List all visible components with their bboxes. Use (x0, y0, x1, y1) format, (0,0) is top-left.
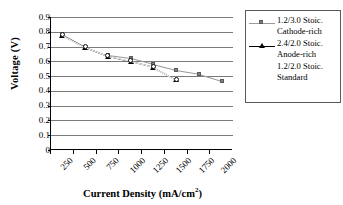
gridline (51, 135, 233, 136)
y-tick-mark (48, 17, 51, 18)
legend-item[interactable]: 1.2/3.0 Stoic.Cathode-rich (249, 15, 337, 36)
data-point-circle (151, 64, 156, 69)
x-axis-title-tail: ) (198, 188, 202, 199)
y-tick-label: 0 (4, 146, 50, 155)
y-tick-label: 0.9 (4, 13, 50, 22)
y-tick-label: 0.2 (4, 116, 50, 125)
x-tick-label: 2000 (220, 156, 239, 175)
legend-label: 1.2/2.0 Stoic.Standard (277, 61, 337, 82)
y-tick-label: 0.5 (4, 72, 50, 81)
legend-key-triangle-icon (259, 43, 265, 48)
data-point-square (220, 79, 224, 83)
legend-marker (249, 42, 275, 50)
gridline (51, 32, 233, 33)
gridline (51, 106, 233, 107)
y-tick-label: 0.8 (4, 27, 50, 36)
legend-item[interactable]: 1.2/2.0 Stoic.Standard (249, 61, 337, 82)
x-tick-label: 250 (59, 156, 75, 172)
x-tick-mark (209, 150, 210, 154)
x-tick-mark (96, 150, 97, 154)
data-point-circle (174, 77, 179, 82)
legend-marker (249, 19, 275, 27)
plot-area (50, 17, 232, 150)
y-tick-label: 0.4 (4, 86, 50, 95)
y-tick-mark (48, 61, 51, 62)
y-tick-mark (48, 32, 51, 33)
x-tick-label: 750 (104, 156, 120, 172)
x-tick-mark (141, 150, 142, 154)
legend-label-line1: 2.4/2.0 Stoic. (277, 38, 337, 49)
x-axis-title: Current Density (mA/cm2) (40, 186, 245, 199)
x-tick-label: 1250 (151, 156, 170, 175)
y-tick-mark (48, 76, 51, 77)
gridline (51, 91, 233, 92)
legend-key-square-icon (259, 20, 263, 24)
x-axis-title-main: Current Density (mA/cm (83, 188, 195, 199)
legend-label-line2: Anode-rich (277, 49, 337, 60)
chart-legend: 1.2/3.0 Stoic.Cathode-rich2.4/2.0 Stoic.… (245, 10, 341, 103)
chart-figure: Voltage (V) 0.90.80.70.60.50.40.30.20.10… (0, 0, 343, 205)
y-tick-label: 0.6 (4, 57, 50, 66)
y-tick-label: 0.3 (4, 101, 50, 110)
x-tick-label: 1750 (197, 156, 216, 175)
legend-label-line2: Standard (277, 72, 337, 83)
y-tick-mark (48, 91, 51, 92)
legend-label-line1: 1.2/3.0 Stoic. (277, 15, 337, 26)
data-point-square (197, 72, 201, 76)
series-line (199, 74, 222, 82)
legend-label: 1.2/3.0 Stoic.Cathode-rich (277, 15, 337, 36)
x-tick-mark (187, 150, 188, 154)
x-tick-mark (50, 150, 51, 154)
gridline (51, 47, 233, 48)
x-tick-label: 1000 (129, 156, 148, 175)
y-tick-mark (48, 135, 51, 136)
y-axis-labels: 0.90.80.70.60.50.40.30.20.10 (0, 0, 50, 205)
y-tick-label: 0.1 (4, 131, 50, 140)
y-tick-label: 0.7 (4, 42, 50, 51)
gridline (51, 120, 233, 121)
legend-item[interactable]: 2.4/2.0 Stoic.Anode-rich (249, 38, 337, 59)
y-tick-mark (48, 120, 51, 121)
gridline (51, 17, 233, 18)
legend-label-line1: 1.2/2.0 Stoic. (277, 61, 337, 72)
y-tick-mark (48, 106, 51, 107)
legend-label-line2: Cathode-rich (277, 26, 337, 37)
x-tick-mark (73, 150, 74, 154)
y-tick-mark (48, 47, 51, 48)
legend-label: 2.4/2.0 Stoic.Anode-rich (277, 38, 337, 59)
legend-marker (249, 65, 275, 73)
x-tick-label: 1500 (174, 156, 193, 175)
x-tick-mark (164, 150, 165, 154)
x-tick-label: 500 (82, 156, 98, 172)
x-tick-mark (118, 150, 119, 154)
series-line (176, 70, 199, 75)
data-point-square (174, 68, 178, 72)
